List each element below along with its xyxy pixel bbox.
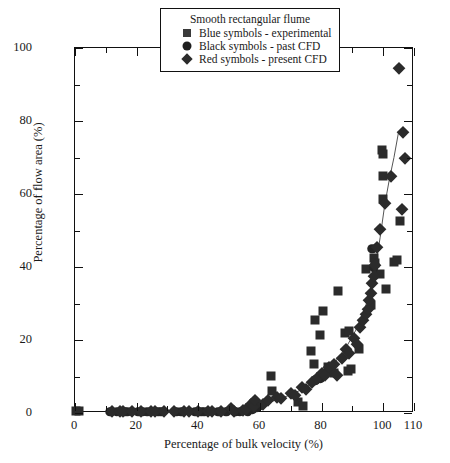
data-point-square <box>311 315 320 324</box>
y-axis-minor-tick <box>75 158 80 159</box>
y-axis-minor-tick-right <box>407 377 412 378</box>
y-axis-tick-right <box>404 48 412 49</box>
x-axis-tick-label: 110 <box>404 418 422 433</box>
plot-area <box>74 47 413 412</box>
x-axis-tick <box>383 403 384 411</box>
y-axis-tick-right <box>404 194 412 195</box>
x-axis-minor-tick-top <box>352 48 353 53</box>
x-axis-tick <box>198 403 199 411</box>
y-axis-tick-right <box>404 340 412 341</box>
x-axis-tick <box>75 403 76 411</box>
legend-item-experimental: Blue symbols - experimental <box>181 27 333 39</box>
data-point-square <box>393 255 402 264</box>
y-axis-minor-tick <box>75 85 80 86</box>
trend-line <box>75 48 414 413</box>
y-axis-minor-tick-right <box>407 85 412 86</box>
legend-item-present-cfd: Red symbols - present CFD <box>181 53 333 65</box>
data-point-square <box>382 284 391 293</box>
x-axis-tick-label: 80 <box>314 418 327 433</box>
x-axis-minor-tick <box>106 406 107 411</box>
x-axis-tick-label: 20 <box>129 418 142 433</box>
y-axis-tick-label: 0 <box>26 405 32 420</box>
x-axis-tick-top <box>75 48 76 56</box>
data-point-square <box>306 346 315 355</box>
diamond-marker-icon <box>181 54 192 65</box>
legend-item-past-cfd: Black symbols - past CFD <box>181 40 333 52</box>
circle-marker-icon <box>181 41 192 52</box>
legend-item-label: Red symbols - present CFD <box>199 53 327 65</box>
y-axis-tick-label: 100 <box>13 40 32 55</box>
chart-figure: Smooth rectangular flume Blue symbols - … <box>0 0 450 463</box>
data-layer <box>75 48 412 411</box>
x-axis-minor-tick <box>167 406 168 411</box>
data-point-square <box>266 371 275 380</box>
y-axis-minor-tick <box>75 377 80 378</box>
x-axis-tick-top <box>383 48 384 56</box>
legend-item-label: Blue symbols - experimental <box>199 27 332 39</box>
data-point-square <box>316 330 325 339</box>
y-axis-tick-label: 20 <box>20 332 33 347</box>
x-axis-tick <box>137 403 138 411</box>
x-axis-tick-top <box>137 48 138 56</box>
y-axis-title: Percentage of flow area (%) <box>31 73 46 313</box>
x-axis-title: Percentage of bulk velocity (%) <box>74 437 413 452</box>
y-axis-minor-tick-right <box>407 231 412 232</box>
y-axis-tick-right <box>404 267 412 268</box>
x-axis-tick-top <box>414 48 415 56</box>
y-axis-tick-right <box>404 413 412 414</box>
y-axis-tick <box>75 121 83 122</box>
x-axis-tick-label: 40 <box>191 418 204 433</box>
x-axis-tick-label: 60 <box>253 418 266 433</box>
x-axis-tick <box>414 403 415 411</box>
x-axis-tick <box>322 403 323 411</box>
data-point-square <box>396 217 405 226</box>
x-axis-tick-label: 100 <box>373 418 392 433</box>
y-axis-tick <box>75 340 83 341</box>
x-axis-tick <box>260 403 261 411</box>
data-point-square <box>346 365 355 374</box>
data-point-square <box>334 286 343 295</box>
chart-legend: Smooth rectangular flume Blue symbols - … <box>160 8 340 72</box>
legend-title: Smooth rectangular flume <box>167 13 333 25</box>
data-point-square <box>378 149 387 158</box>
x-axis-minor-tick-top <box>106 48 107 53</box>
data-point-square <box>319 306 328 315</box>
x-axis-minor-tick <box>291 406 292 411</box>
y-axis-tick <box>75 194 83 195</box>
y-axis-tick <box>75 413 83 414</box>
data-point-square <box>309 359 318 368</box>
y-axis-minor-tick <box>75 304 80 305</box>
x-axis-minor-tick <box>352 406 353 411</box>
x-axis-minor-tick <box>229 406 230 411</box>
y-axis-minor-tick-right <box>407 304 412 305</box>
y-axis-minor-tick-right <box>407 158 412 159</box>
y-axis-tick <box>75 267 83 268</box>
x-axis-tick-label: 0 <box>71 418 77 433</box>
y-axis-tick <box>75 48 83 49</box>
y-axis-tick-right <box>404 121 412 122</box>
square-marker-icon <box>181 28 192 39</box>
y-axis-minor-tick <box>75 231 80 232</box>
data-point-square <box>299 401 308 410</box>
legend-item-label: Black symbols - past CFD <box>199 40 320 52</box>
